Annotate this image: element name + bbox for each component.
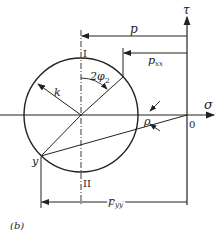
mohr-circle-diagram: τ σ 0 I II k 2φ2 y ρ p pxx pyy (b) [0,0,224,230]
point-y-label: y [31,155,39,168]
origin-label: 0 [189,119,195,130]
pxx-label: pxx [148,54,163,68]
rho-label: ρ [143,115,151,128]
rho-arrow-lower [150,124,160,131]
p-label: p [130,22,138,36]
radius-to-y-point [41,115,81,156]
tau-label: τ [183,3,190,17]
panel-label: (b) [10,220,24,230]
angle-label: 2φ2 [89,70,110,85]
point-II-label: II [83,178,91,189]
pyy-label: pyy [108,195,124,209]
rho-arrow-upper [150,101,160,111]
sigma-label: σ [204,97,214,112]
line-origin-to-y [41,115,187,156]
radius-k-label: k [54,86,61,99]
point-I-label: I [83,48,87,59]
